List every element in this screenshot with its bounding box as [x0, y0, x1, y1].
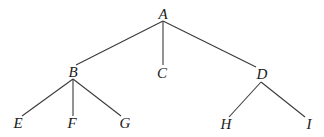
edge-b-g	[73, 79, 121, 116]
node-a: A	[158, 7, 167, 22]
tree-diagram: A B C D E F G H I	[0, 0, 324, 137]
node-i: I	[307, 117, 312, 132]
node-h: H	[221, 117, 232, 132]
node-d: D	[257, 67, 268, 82]
edge-a-b	[76, 21, 163, 65]
node-c: C	[157, 66, 167, 81]
edge-d-h	[229, 82, 261, 117]
node-f: F	[67, 116, 76, 131]
edge-a-d	[163, 21, 256, 67]
edge-b-e	[22, 79, 73, 116]
node-e: E	[13, 116, 22, 131]
node-g: G	[120, 116, 131, 131]
node-b: B	[68, 65, 77, 80]
edge-d-i	[261, 82, 305, 117]
